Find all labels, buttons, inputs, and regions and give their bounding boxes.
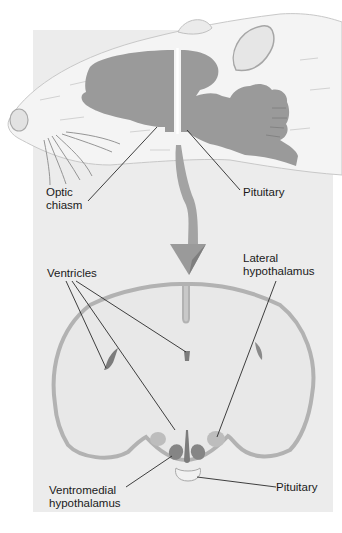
label-pituitary-top: Pituitary [243, 186, 285, 199]
label-ventricles: Ventricles [47, 267, 97, 280]
label-ventromedial-hypothalamus: Ventromedial hypothalamus [49, 484, 121, 510]
label-optic-chiasm: Optic chiasm [46, 186, 82, 212]
down-arrow-icon [170, 145, 206, 275]
coronal-section [54, 284, 314, 481]
label-lateral-hypothalamus: Lateral hypothalamus [243, 252, 315, 278]
label-pituitary-bottom: Pituitary [276, 481, 318, 494]
rat-head [8, 14, 342, 185]
